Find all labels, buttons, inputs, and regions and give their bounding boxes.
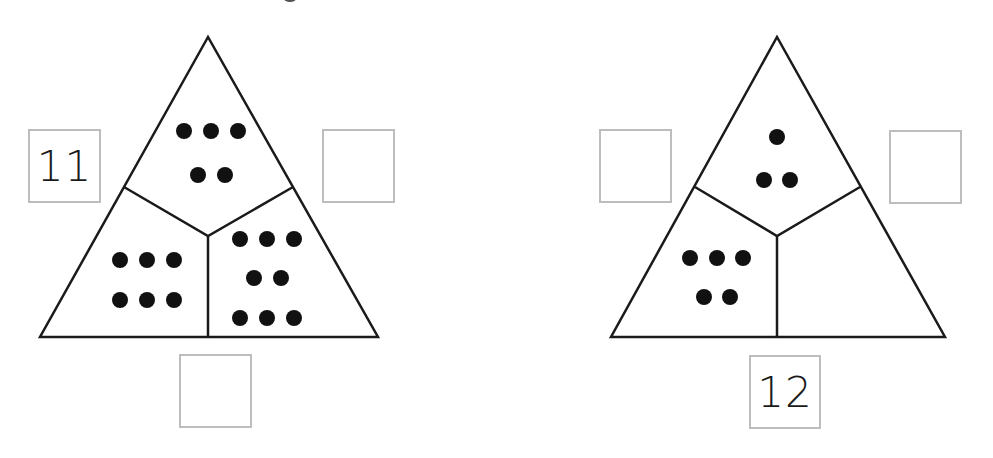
right-puzzle-box-right[interactable] — [889, 130, 962, 204]
triangle-right-divider-v — [695, 187, 860, 236]
number-triangles-diagram — [0, 0, 993, 458]
right-bottom-left-dots — [682, 250, 751, 305]
triangle-right-dots — [682, 129, 798, 305]
left-top-dots — [176, 123, 246, 183]
right-top-dots — [756, 129, 798, 188]
triangle-left-divider-v — [124, 187, 293, 236]
right-puzzle-box-left[interactable] — [599, 129, 672, 203]
box-value: 11 — [37, 142, 92, 191]
left-bottom-right-dots — [232, 231, 302, 326]
left-puzzle-box-bottom[interactable] — [179, 354, 252, 428]
right-puzzle-box-bottom[interactable]: 12 — [749, 355, 821, 429]
box-value: 12 — [757, 368, 812, 417]
left-bottom-left-dots — [112, 252, 182, 308]
left-puzzle-box-left[interactable]: 11 — [28, 129, 101, 203]
left-puzzle-box-right[interactable] — [322, 129, 395, 203]
